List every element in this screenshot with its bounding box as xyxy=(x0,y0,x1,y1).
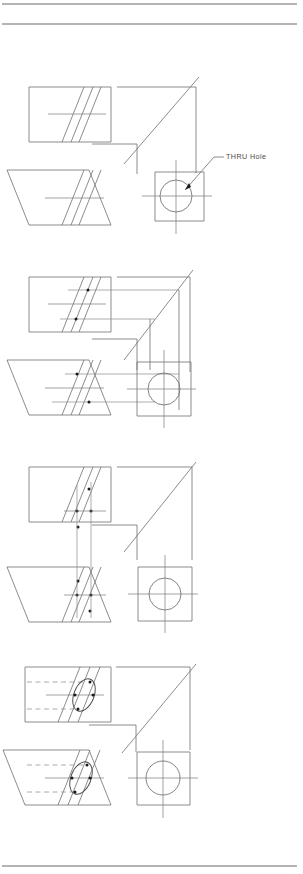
top-intersection-point-lower xyxy=(88,401,91,404)
step4-projection-framework xyxy=(89,664,196,753)
band-line-1 xyxy=(62,277,84,332)
front-view-rectangle xyxy=(29,87,111,142)
step4-top-view xyxy=(3,750,111,805)
front-view-rectangle xyxy=(25,667,111,722)
step-4-completed-ellipse xyxy=(3,664,198,818)
top-band-line-1 xyxy=(62,567,84,622)
top-ellipse-point-left xyxy=(71,777,74,780)
step3-side-view xyxy=(128,555,198,633)
step-2-horizontal-projection xyxy=(7,270,196,428)
thru-hole-label: THRU Hole xyxy=(226,152,266,161)
step4-front-view xyxy=(25,667,111,722)
miter-line-45deg xyxy=(124,77,199,164)
step3-top-view xyxy=(7,567,111,622)
band-line-1 xyxy=(58,667,80,722)
top-intersection-point-upper xyxy=(76,373,79,376)
side-view-square xyxy=(137,752,190,805)
step-1-base-views: THRU Hole xyxy=(7,77,266,234)
step1-front-view xyxy=(29,87,111,142)
step3-front-view xyxy=(29,467,111,529)
top-view-outline xyxy=(7,567,111,622)
band-line-3 xyxy=(78,667,100,722)
intersection-point-lower xyxy=(75,318,78,321)
top-view-outline xyxy=(3,750,111,805)
header-rules xyxy=(2,4,297,24)
technical-drawing-canvas: THRU Hole xyxy=(0,0,303,874)
ellipse-point-left xyxy=(74,694,77,697)
top-ellipse-point-right xyxy=(89,777,92,780)
top-view-outline xyxy=(7,170,111,225)
top-band-line-1 xyxy=(58,750,80,805)
step1-top-view xyxy=(7,170,111,225)
front-view-rectangle xyxy=(29,467,111,522)
miter-line-45deg xyxy=(124,270,193,360)
step2-top-view xyxy=(7,360,179,415)
top-band-line-1 xyxy=(62,360,84,415)
front-view-rectangle xyxy=(29,277,111,332)
step4-side-view xyxy=(128,740,198,818)
ellipse-point-top xyxy=(89,681,92,684)
step2-front-view xyxy=(29,277,179,332)
band-line-1 xyxy=(62,467,84,522)
top-ellipse-point-top xyxy=(86,764,89,767)
top-band-line-1 xyxy=(62,170,84,225)
band-line-1 xyxy=(62,87,84,142)
side-view-square xyxy=(155,172,204,221)
ellipse-point-bottom xyxy=(77,708,80,711)
step1-projection-framework xyxy=(92,77,199,174)
band-line-2 xyxy=(68,667,90,722)
step3-projection-framework xyxy=(92,462,196,560)
miter-line-45deg xyxy=(124,462,196,552)
drawing-sheet: THRU Hole xyxy=(0,0,303,874)
thru-hole-annotation: THRU Hole xyxy=(185,152,266,190)
top-ellipse-point-bottom xyxy=(74,791,77,794)
intersection-point-a xyxy=(88,488,91,491)
ellipse-point-right xyxy=(92,694,95,697)
miter-line-45deg xyxy=(122,664,196,753)
intersection-point-upper xyxy=(87,289,90,292)
top-view-outline xyxy=(7,360,111,415)
step-3-vertical-projection xyxy=(7,462,198,633)
